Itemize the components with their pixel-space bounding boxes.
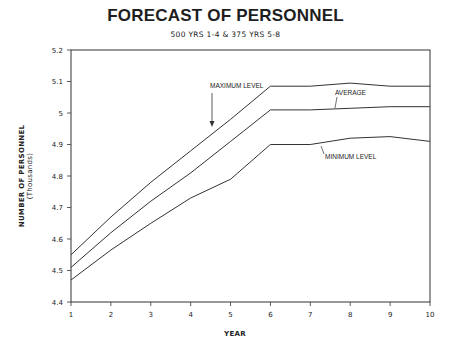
y-tick-label: 4.4 [52,299,64,307]
y-tick-label: 4.8 [52,173,63,181]
x-tick-label: 8 [348,311,352,319]
y-tick-label: 5.1 [52,78,63,86]
y-tick-label: 4.9 [52,141,63,149]
annotation-maximum-level: MAXIMUM LEVEL [210,82,264,89]
series-group [71,83,430,280]
arrowhead-icon [210,121,215,127]
y-axis-title: NUMBER OF PERSONNEL [18,124,26,227]
series-line-average [71,107,430,268]
x-tick-label: 4 [188,311,193,319]
y-tick-label: 4.5 [52,267,63,275]
minimum-pointer-line [321,146,324,154]
x-tick-label: 5 [228,311,232,319]
x-tick-label: 6 [268,311,273,319]
y-axis: 4.44.54.64.74.84.955.15.2 [52,47,71,307]
x-tick-label: 2 [109,311,113,319]
y-tick-label: 5.2 [52,47,63,55]
series-line-maximum-level [71,83,430,255]
x-tick-label: 10 [426,311,435,319]
x-tick-label: 7 [308,311,312,319]
y-tick-label: 5 [59,110,63,118]
x-tick-label: 3 [149,311,153,319]
y-tick-label: 4.7 [52,204,63,212]
annotation-minimum-level: MINIMUM LEVEL [325,153,377,160]
line-chart: 4.44.54.64.74.84.955.15.2 12345678910 MA… [0,0,451,348]
y-axis-units: (Thousands) [26,153,34,200]
x-tick-label: 1 [69,311,73,319]
annotation-average: AVERAGE [335,89,367,96]
average-pointer-line [335,97,337,108]
y-axis-title-group: NUMBER OF PERSONNEL (Thousands) [18,124,34,227]
x-axis: 12345678910 [69,302,435,319]
annotations: MAXIMUM LEVEL AVERAGE MINIMUM LEVEL [210,82,377,160]
x-tick-label: 9 [388,311,392,319]
y-tick-label: 4.6 [52,236,64,244]
x-axis-title: YEAR [223,330,246,338]
